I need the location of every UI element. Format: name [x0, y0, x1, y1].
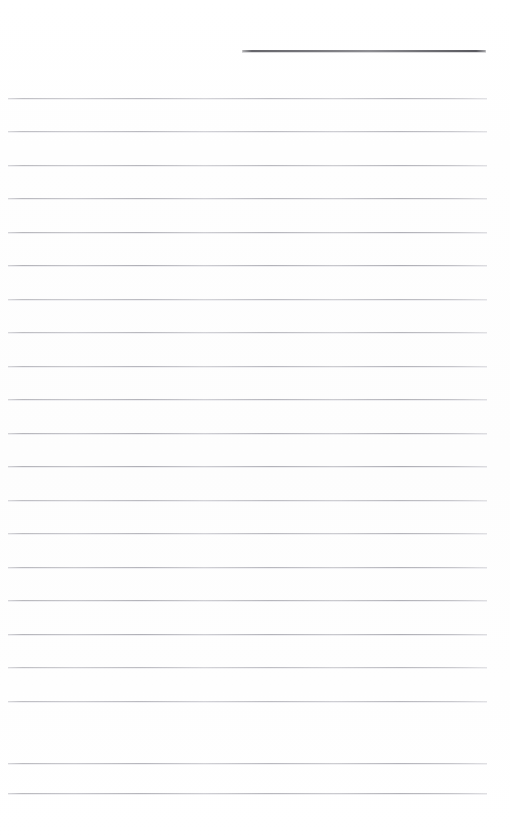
- rule-line-9: [8, 366, 487, 367]
- rule-line-19: [8, 701, 487, 702]
- rule-line-15: [8, 567, 487, 568]
- ruled-lines-group: [0, 0, 510, 838]
- rule-line-5: [8, 232, 487, 233]
- rule-line-13: [8, 500, 487, 501]
- rule-line-4: [8, 198, 487, 199]
- rule-line-20: [8, 763, 487, 764]
- rule-line-6: [8, 265, 487, 266]
- rule-line-12: [8, 466, 487, 467]
- rule-line-8: [8, 332, 487, 333]
- rule-line-3: [8, 165, 487, 166]
- rule-line-10: [8, 399, 487, 400]
- rule-line-11: [8, 433, 487, 434]
- rule-line-2: [8, 131, 487, 132]
- rule-line-16: [8, 600, 487, 601]
- rule-line-1: [8, 98, 487, 99]
- rule-line-14: [8, 533, 487, 534]
- rule-line-21: [8, 793, 487, 794]
- rule-line-17: [8, 634, 487, 635]
- rule-line-18: [8, 667, 487, 668]
- rule-line-7: [8, 299, 487, 300]
- scanned-page: [0, 0, 510, 838]
